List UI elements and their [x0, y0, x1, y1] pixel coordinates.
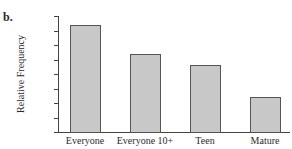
x-category-label: Everyone: [66, 135, 104, 146]
bar-teen: [190, 65, 221, 133]
bar-everyone: [70, 25, 101, 133]
x-category-label: Everyone 10+: [117, 135, 173, 146]
bar-everyone-10plus: [130, 54, 161, 133]
x-category-label: Mature: [251, 135, 280, 146]
y-axis-ticks: 0 0.05 0.10 0.15 0.20 0.25 0.30 0.35 0.4…: [0, 0, 58, 149]
y-axis-line: [58, 16, 59, 133]
bar-mature: [250, 97, 281, 133]
x-category-label: Teen: [195, 135, 214, 146]
